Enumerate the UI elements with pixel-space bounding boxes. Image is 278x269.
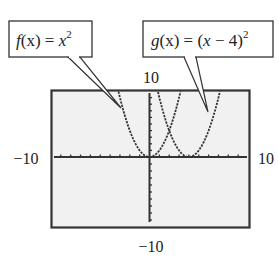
xmax-label: 10 [258, 150, 274, 167]
xmin-label: −10 [13, 150, 38, 167]
callout-g-text: g(x) = (x − 4)2 [151, 28, 248, 50]
ymax-label: 10 [143, 69, 159, 86]
callout-f-text: f(x) = x2 [16, 28, 72, 50]
ymin-label: −10 [138, 238, 163, 255]
graph-figure: 10 −10 −10 10 f(x) = x2 g(x) = (x − 4)2 [0, 0, 278, 269]
